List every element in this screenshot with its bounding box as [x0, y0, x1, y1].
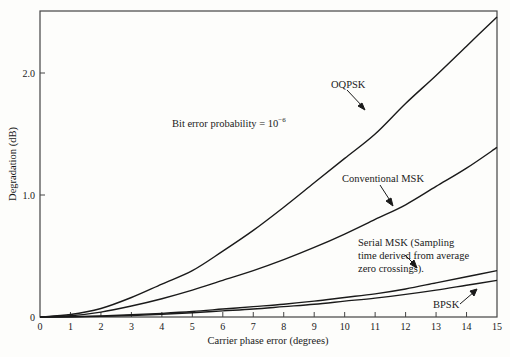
- y-tick-label: 2.0: [23, 68, 36, 79]
- y-axis-label: Degradation (dB): [7, 127, 19, 201]
- x-axis-ticks: 0123456789101112131415: [38, 312, 503, 332]
- x-tick-label: 8: [281, 321, 286, 332]
- x-tick-label: 3: [129, 321, 134, 332]
- curve-serial: [40, 271, 497, 317]
- x-tick-label: 9: [312, 321, 317, 332]
- y-tick-label: 1.0: [23, 190, 36, 201]
- x-tick-label: 14: [462, 321, 472, 332]
- x-tick-label: 6: [220, 321, 225, 332]
- label-oqpsk: OQPSK: [331, 78, 365, 91]
- label-bpsk: BPSK: [433, 298, 459, 311]
- x-tick-label: 1: [68, 321, 73, 332]
- annotation-bit-error: Bit error probability = 10−6: [172, 114, 286, 130]
- curve-bpsk: [40, 280, 497, 317]
- serial-msk-line-3: zero crossings).: [358, 262, 469, 275]
- x-tick-label: 0: [38, 321, 43, 332]
- x-tick-label: 7: [251, 321, 256, 332]
- serial-msk-line-2: time derived from average: [358, 249, 469, 262]
- y-tick-label: 0: [30, 312, 35, 323]
- annotation-exponent: −6: [278, 116, 285, 124]
- x-tick-label: 11: [370, 321, 380, 332]
- x-tick-label: 13: [431, 321, 441, 332]
- label-serial-msk: Serial MSK (Sampling time derived from a…: [358, 236, 469, 275]
- x-tick-label: 2: [98, 321, 103, 332]
- x-tick-label: 12: [401, 321, 411, 332]
- x-tick-label: 5: [190, 321, 195, 332]
- x-tick-label: 4: [159, 321, 164, 332]
- y-axis-ticks: 01.02.0: [23, 68, 46, 323]
- annotation-base: Bit error probability = 10: [172, 118, 278, 129]
- label-conventional-msk: Conventional MSK: [342, 172, 424, 185]
- x-tick-label: 10: [340, 321, 350, 332]
- x-tick-label: 15: [492, 321, 502, 332]
- x-axis-label: Carrier phase error (degrees): [208, 335, 329, 347]
- serial-msk-line-1: Serial MSK (Sampling: [358, 236, 469, 249]
